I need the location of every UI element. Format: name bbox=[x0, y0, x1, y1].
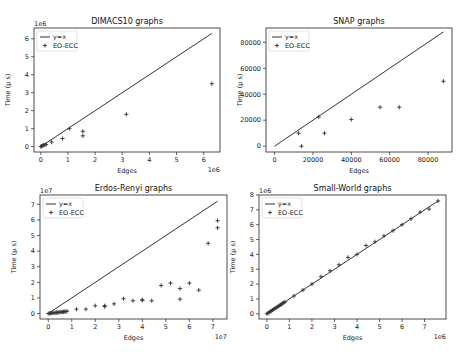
legend-label: y=x bbox=[53, 33, 66, 41]
y-tick-label: 0 bbox=[25, 143, 29, 151]
data-point bbox=[441, 79, 445, 83]
legend-label: y=x bbox=[285, 33, 298, 41]
x-tick-label: 2 bbox=[93, 156, 97, 164]
data-point bbox=[124, 112, 128, 116]
x-tick-label: 6 bbox=[187, 323, 191, 331]
chart-title: SNAP graphs bbox=[333, 17, 385, 26]
x-axis-label: Edges bbox=[343, 334, 363, 342]
y-tick-label: 7 bbox=[250, 206, 254, 214]
y-tick-label: 1 bbox=[31, 294, 35, 302]
x-axis-label: Edges bbox=[124, 334, 144, 342]
x-tick-label: 3 bbox=[332, 323, 336, 331]
legend: y=xEO-ECC bbox=[262, 198, 303, 218]
y-tick-label: 4 bbox=[25, 71, 29, 79]
figure: DIMACS10 graphs012345601234561e61e6Edges… bbox=[0, 0, 468, 357]
x-tick-label: 5 bbox=[174, 156, 178, 164]
y-tick-label: 1 bbox=[250, 295, 254, 303]
x-tick-label: 7 bbox=[211, 323, 215, 331]
x-axis-label: Edges bbox=[349, 167, 369, 175]
y-tick-label: 2 bbox=[250, 280, 254, 288]
y-tick-label: 0 bbox=[250, 310, 254, 318]
x-offset-label: 1e7 bbox=[215, 333, 227, 341]
y-tick-label: 6 bbox=[25, 35, 29, 43]
x-tick-label: 5 bbox=[377, 323, 381, 331]
data-point bbox=[121, 297, 125, 301]
subplot-2: SNAP graphs02000040000600008000002000040… bbox=[236, 17, 452, 175]
chart-canvas: DIMACS10 graphs012345601234561e61e6Edges… bbox=[0, 0, 468, 357]
data-point bbox=[328, 269, 332, 273]
x-tick-label: 1 bbox=[70, 323, 74, 331]
data-point bbox=[187, 281, 191, 285]
x-tick-label: 4 bbox=[140, 323, 144, 331]
x-tick-label: 1 bbox=[287, 323, 291, 331]
chart-title: Erdos-Renyi graphs bbox=[95, 184, 173, 193]
x-tick-label: 60000 bbox=[379, 156, 400, 164]
y-tick-label: 3 bbox=[31, 263, 35, 271]
x-tick-label: 20000 bbox=[303, 156, 324, 164]
data-point bbox=[150, 299, 154, 303]
x-tick-label: 3 bbox=[120, 156, 124, 164]
data-point bbox=[206, 241, 210, 245]
subplot-3: Erdos-Renyi graphs01234567012345671e71e7… bbox=[10, 184, 227, 342]
data-point bbox=[60, 136, 64, 140]
y-tick-label: 0 bbox=[31, 310, 35, 318]
data-point bbox=[81, 134, 85, 138]
y-tick-label: 3 bbox=[250, 266, 254, 274]
y-offset-label: 1e6 bbox=[34, 20, 46, 28]
x-tick-label: 0 bbox=[39, 156, 43, 164]
y-tick-label: 5 bbox=[31, 232, 35, 240]
y-axis-label: Time (µ s) bbox=[10, 241, 18, 275]
data-point bbox=[337, 263, 341, 267]
y-tick-label: 0 bbox=[257, 142, 261, 150]
data-point bbox=[84, 307, 88, 311]
y-axis-label: Time (µ s) bbox=[229, 241, 237, 275]
legend-label: EO-ECC bbox=[285, 42, 310, 50]
legend: y=xEO-ECC bbox=[37, 31, 78, 51]
y-tick-label: 1 bbox=[25, 125, 29, 133]
data-point bbox=[93, 304, 97, 308]
x-tick-label: 2 bbox=[310, 323, 314, 331]
y-tick-label: 6 bbox=[31, 216, 35, 224]
data-point bbox=[299, 144, 303, 148]
data-point bbox=[397, 105, 401, 109]
x-tick-label: 4 bbox=[355, 323, 359, 331]
y-tick-label: 2 bbox=[31, 279, 35, 287]
x-tick-label: 3 bbox=[117, 323, 121, 331]
subplot-4: Small-World graphs012345670123456781e61e… bbox=[229, 184, 446, 342]
y-tick-label: 4 bbox=[250, 251, 254, 259]
x-offset-label: 1e6 bbox=[434, 333, 446, 341]
x-tick-label: 0 bbox=[273, 156, 277, 164]
x-tick-label: 1 bbox=[66, 156, 70, 164]
x-tick-label: 80000 bbox=[418, 156, 439, 164]
data-point bbox=[296, 131, 300, 135]
chart-title: Small-World graphs bbox=[314, 184, 392, 193]
legend: y=xEO-ECC bbox=[43, 198, 84, 218]
subplot-1: DIMACS10 graphs012345601234561e61e6Edges… bbox=[4, 17, 220, 175]
legend: y=xEO-ECC bbox=[269, 31, 310, 51]
y-axis-label: Time (µ s) bbox=[4, 74, 12, 108]
data-point bbox=[319, 275, 323, 279]
y-tick-label: 7 bbox=[31, 201, 35, 209]
x-tick-label: 2 bbox=[93, 323, 97, 331]
data-point bbox=[322, 131, 326, 135]
data-point bbox=[178, 297, 182, 301]
y-offset-label: 1e6 bbox=[259, 187, 271, 195]
data-point bbox=[215, 226, 219, 230]
legend-label: y=x bbox=[278, 200, 291, 208]
data-point bbox=[378, 105, 382, 109]
y-offset-label: 1e7 bbox=[40, 187, 52, 195]
data-point bbox=[197, 288, 201, 292]
legend-label: EO-ECC bbox=[59, 209, 84, 217]
x-offset-label: 1e6 bbox=[208, 166, 220, 174]
legend-label: EO-ECC bbox=[278, 209, 303, 217]
x-tick-label: 6 bbox=[202, 156, 206, 164]
y-tick-label: 2 bbox=[25, 107, 29, 115]
x-tick-label: 40000 bbox=[341, 156, 362, 164]
data-point bbox=[210, 82, 214, 86]
x-tick-label: 0 bbox=[46, 323, 50, 331]
data-point bbox=[140, 298, 144, 302]
y-tick-label: 5 bbox=[250, 236, 254, 244]
y-tick-label: 80000 bbox=[240, 39, 261, 47]
y-axis-label: Time (µ s) bbox=[236, 74, 244, 108]
data-point bbox=[178, 286, 182, 290]
